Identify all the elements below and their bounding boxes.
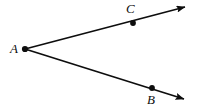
point-b-dot (149, 85, 155, 91)
point-label-b: B (147, 93, 155, 106)
point-a-dot (22, 46, 28, 52)
point-c-dot (130, 20, 136, 26)
ray-ab-line (25, 49, 184, 99)
geometry-canvas (0, 0, 197, 112)
point-label-a: A (10, 42, 18, 55)
ray-ac-line (25, 7, 185, 49)
geometry-figure: A C B (0, 0, 197, 112)
point-label-c: C (126, 2, 135, 15)
